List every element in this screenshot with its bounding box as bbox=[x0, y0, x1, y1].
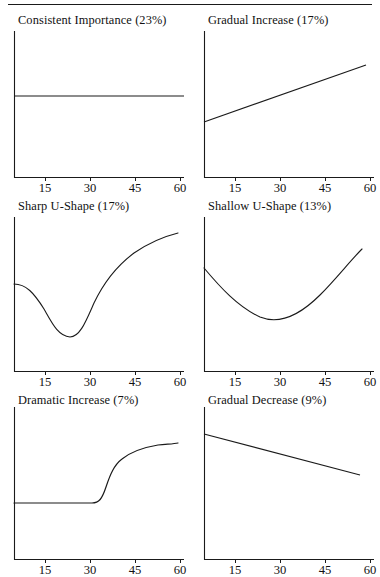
axes bbox=[205, 31, 375, 181]
plot-sharp-u-shape: 15 30 45 60 bbox=[0, 195, 190, 389]
x-tick-label-30: 30 bbox=[84, 375, 97, 389]
panel-consistent-importance: Consistent Importance (23%) 15 30 45 60 bbox=[0, 9, 190, 195]
x-tick-label-30: 30 bbox=[84, 563, 97, 577]
plot-dramatic-increase: 15 30 45 60 bbox=[0, 389, 190, 577]
panel-shallow-u-shape: Shallow U-Shape (13%) 15 30 45 60 bbox=[190, 195, 380, 389]
x-tick-label-15: 15 bbox=[39, 181, 52, 195]
series-curve-shallow-u bbox=[204, 249, 362, 320]
panel-gradual-increase: Gradual Increase (17%) 15 30 45 60 bbox=[190, 9, 380, 195]
x-tick-label-60: 60 bbox=[174, 563, 187, 577]
x-tick-label-45: 45 bbox=[129, 563, 142, 577]
plot-consistent-importance: 15 30 45 60 bbox=[0, 9, 190, 195]
x-tick-label-60: 60 bbox=[364, 181, 377, 195]
x-tick-label-60: 60 bbox=[174, 375, 187, 389]
x-tick-label-15: 15 bbox=[39, 563, 52, 577]
figure-top-rule bbox=[8, 4, 372, 5]
axes bbox=[15, 217, 185, 375]
x-tick-label-30: 30 bbox=[274, 375, 287, 389]
axes bbox=[15, 31, 185, 181]
x-tick-label-45: 45 bbox=[129, 375, 142, 389]
x-tick-label-30: 30 bbox=[274, 181, 287, 195]
plot-shallow-u-shape: 15 30 45 60 bbox=[190, 195, 380, 389]
panel-dramatic-increase: Dramatic Increase (7%) 15 30 45 60 bbox=[0, 389, 190, 577]
panel-grid: Consistent Importance (23%) 15 30 45 60 bbox=[0, 9, 380, 577]
plot-gradual-increase: 15 30 45 60 bbox=[190, 9, 380, 195]
x-tick-label-45: 45 bbox=[319, 563, 332, 577]
x-tick-label-15: 15 bbox=[229, 563, 242, 577]
x-tick-label-15: 15 bbox=[39, 375, 52, 389]
x-tick-label-60: 60 bbox=[174, 181, 187, 195]
x-tick-label-45: 45 bbox=[129, 181, 142, 195]
x-tick-label-30: 30 bbox=[84, 181, 97, 195]
axes bbox=[205, 407, 375, 563]
series-curve-dramatic-increase bbox=[14, 443, 178, 503]
panel-sharp-u-shape: Sharp U-Shape (17%) 15 30 45 60 bbox=[0, 195, 190, 389]
axes bbox=[15, 407, 185, 563]
x-tick-label-15: 15 bbox=[229, 181, 242, 195]
x-tick-label-45: 45 bbox=[319, 375, 332, 389]
panel-gradual-decrease: Gradual Decrease (9%) 15 30 45 60 bbox=[190, 389, 380, 577]
x-tick-label-30: 30 bbox=[274, 563, 287, 577]
x-tick-label-45: 45 bbox=[319, 181, 332, 195]
x-tick-label-60: 60 bbox=[364, 563, 377, 577]
series-line-falling bbox=[204, 434, 360, 475]
figure-small-multiples: Consistent Importance (23%) 15 30 45 60 bbox=[0, 0, 380, 577]
x-tick-label-60: 60 bbox=[364, 375, 377, 389]
x-tick-label-15: 15 bbox=[229, 375, 242, 389]
plot-gradual-decrease: 15 30 45 60 bbox=[190, 389, 380, 577]
series-curve-sharp-u bbox=[14, 233, 178, 337]
series-line-rising bbox=[204, 65, 366, 122]
